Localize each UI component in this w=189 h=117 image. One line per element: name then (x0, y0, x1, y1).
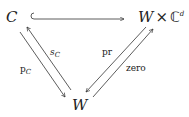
label-s-c: sC (50, 48, 60, 59)
complex-field-symbol: ℂ (170, 9, 180, 25)
arrow-inclusion-hook (31, 13, 34, 19)
node-w-bottom-label: W (72, 96, 87, 114)
label-p-sub: C (26, 68, 31, 76)
arrow-s-c (27, 27, 71, 90)
label-zero: zero (126, 64, 146, 73)
node-c-label: C (6, 8, 17, 26)
label-s-sub: C (55, 51, 60, 59)
exponent-d: d (180, 10, 184, 18)
node-w-times-cd: W×ℂd (138, 10, 184, 25)
node-c: C (6, 10, 17, 25)
node-w: W (72, 98, 87, 113)
label-zero-text: zero (126, 63, 146, 73)
label-p-c: pC (20, 65, 31, 76)
label-pr-text: pr (102, 47, 112, 57)
node-w-label: W (138, 8, 153, 26)
label-pr: pr (102, 48, 112, 57)
times-symbol: × (153, 8, 170, 26)
arrow-pr (86, 27, 146, 92)
